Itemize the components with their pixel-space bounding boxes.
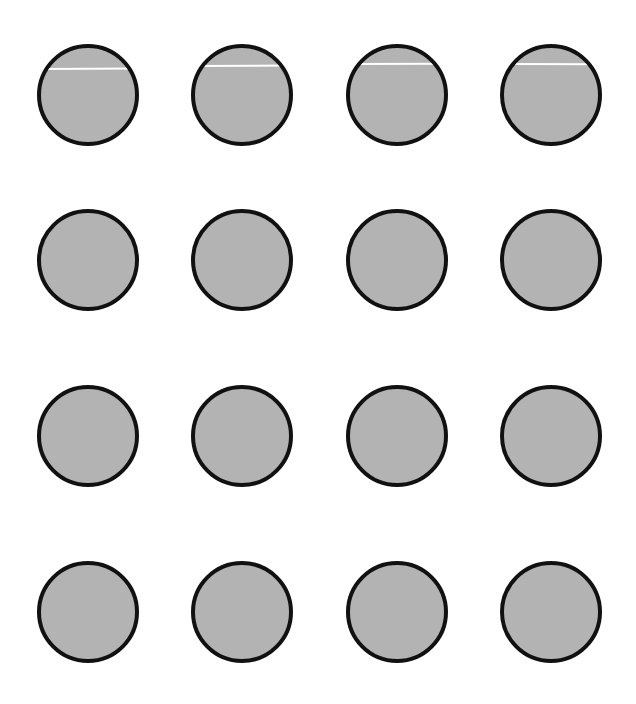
circle-r1-c4 <box>500 44 602 146</box>
circle-r1-c3 <box>346 44 448 146</box>
circle-r1-c2 <box>191 44 293 146</box>
circle-r3-c3 <box>346 385 448 487</box>
circle-r4-c3 <box>346 561 448 663</box>
fill-level-line <box>41 68 135 70</box>
circle-r2-c4 <box>500 209 602 311</box>
circle-grid-diagram <box>0 0 636 704</box>
circle-r2-c3 <box>346 209 448 311</box>
circle-r4-c1 <box>37 561 139 663</box>
circle-r3-c2 <box>191 385 293 487</box>
fill-level-line <box>350 63 444 65</box>
circle-r2-c2 <box>191 209 293 311</box>
fill-level-line <box>195 65 289 67</box>
circle-r4-c4 <box>500 561 602 663</box>
circle-r3-c4 <box>500 385 602 487</box>
circle-r4-c2 <box>191 561 293 663</box>
circle-r3-c1 <box>37 385 139 487</box>
circle-r1-c1 <box>37 44 139 146</box>
circle-r2-c1 <box>37 209 139 311</box>
fill-level-line <box>504 63 598 65</box>
